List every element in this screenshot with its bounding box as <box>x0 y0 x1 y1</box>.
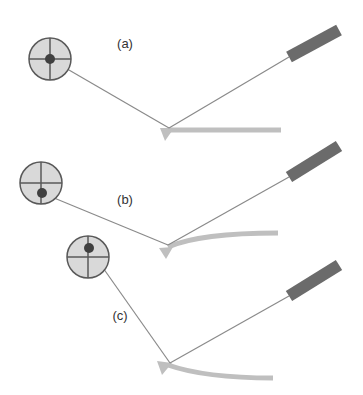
panel-label: (c) <box>112 308 127 323</box>
panel-a: (a) <box>29 30 339 141</box>
diagram-canvas: (a) (b) (c) <box>0 0 363 395</box>
panel-b: (b) <box>20 146 339 259</box>
attachment-dot <box>45 54 55 64</box>
beam-bar <box>168 365 273 378</box>
attachment-dot <box>84 243 94 253</box>
string-left <box>42 193 168 245</box>
pivot-triangle-icon <box>160 128 174 141</box>
string-right <box>170 296 289 363</box>
string-right <box>169 57 289 128</box>
attachment-dot <box>37 188 47 198</box>
panel-label: (b) <box>117 192 133 207</box>
pivot-triangle-icon <box>159 247 173 259</box>
panel-label: (a) <box>117 36 133 51</box>
panel-c: (c) <box>67 236 339 378</box>
weight-block <box>289 146 339 177</box>
weight-block <box>289 30 339 57</box>
weight-block <box>289 265 339 296</box>
